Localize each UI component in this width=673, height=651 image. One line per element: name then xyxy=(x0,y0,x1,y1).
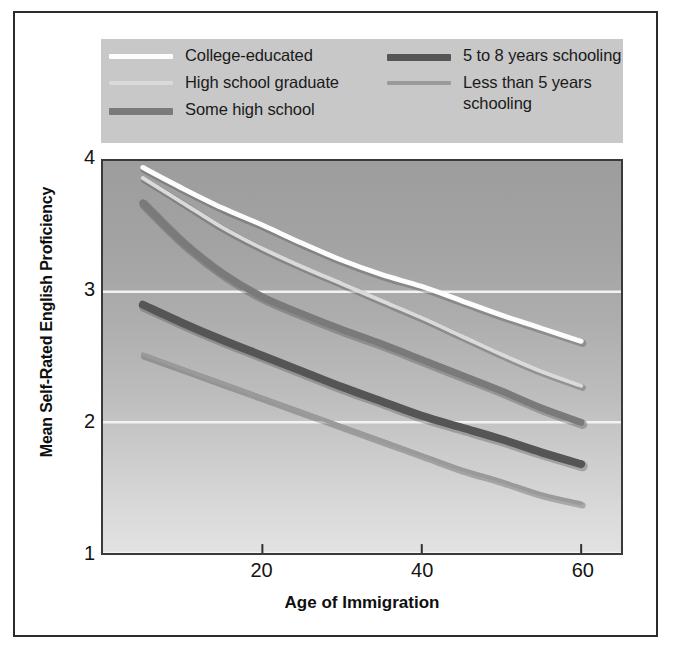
legend-item-label: College-educated xyxy=(185,45,313,66)
x-axis-title: Age of Immigration xyxy=(101,593,623,613)
plot-area xyxy=(101,159,623,555)
y-axis-ticks: 4321 xyxy=(61,13,95,639)
legend-item[interactable]: Some high school xyxy=(109,99,315,120)
legend-item[interactable]: College-educated xyxy=(109,45,313,66)
legend-item-label: 5 to 8 years schooling xyxy=(463,45,621,66)
legend-item[interactable]: 5 to 8 years schooling xyxy=(387,45,621,66)
legend-column-left: College-educatedHigh school graduateSome… xyxy=(109,39,379,143)
x-tick-label-60: 60 xyxy=(553,559,613,582)
legend-item-label: Some high school xyxy=(185,99,315,120)
figure-frame: College-educatedHigh school graduateSome… xyxy=(13,11,658,637)
plot-canvas xyxy=(103,161,621,553)
legend-swatch-line-icon xyxy=(387,54,451,61)
legend-item-label: High school graduate xyxy=(185,72,339,93)
series-shadow-1 xyxy=(144,180,582,388)
y-tick-label-4: 4 xyxy=(67,146,95,169)
series-shadow-0 xyxy=(144,170,582,344)
legend-swatch-line-icon xyxy=(109,54,173,59)
y-tick-label-2: 2 xyxy=(67,410,95,433)
legend-swatch-line-icon xyxy=(387,81,451,85)
legend-item-label: Less than 5 years schooling xyxy=(463,72,592,114)
legend-item[interactable]: Less than 5 years schooling xyxy=(387,72,592,114)
legend-item[interactable]: High school graduate xyxy=(109,72,339,93)
chart-legend: College-educatedHigh school graduateSome… xyxy=(101,39,623,143)
x-axis-ticks: 204060 xyxy=(101,559,623,589)
data-line-college-educated[interactable] xyxy=(143,168,581,342)
data-line-5-to-8-years-schooling[interactable] xyxy=(143,305,581,464)
x-tick-label-20: 20 xyxy=(232,559,292,582)
legend-swatch-line-icon xyxy=(109,108,173,115)
x-tick-label-40: 40 xyxy=(392,559,452,582)
data-line-less-than-5-years-schooling[interactable] xyxy=(143,354,581,503)
y-tick-label-1: 1 xyxy=(67,542,95,565)
legend-swatch-line-icon xyxy=(109,81,173,85)
y-tick-label-3: 3 xyxy=(67,278,95,301)
data-line-high-school-graduate[interactable] xyxy=(143,178,581,386)
legend-column-right: 5 to 8 years schoolingLess than 5 years … xyxy=(387,39,623,143)
data-line-some-high-school[interactable] xyxy=(143,203,581,423)
y-axis-title: Mean Self-Rated English Proficiency xyxy=(38,142,56,502)
